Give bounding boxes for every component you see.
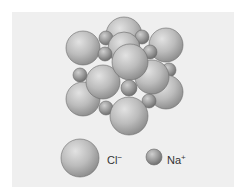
sodium-ion-sphere (73, 68, 87, 82)
chloride-ion-sphere (66, 31, 100, 65)
sodium-ion-sphere (121, 80, 137, 96)
legend-chloride-icon (61, 139, 99, 177)
legend-label-chloride: Cl− (107, 152, 122, 166)
nacl-lattice-diagram (0, 0, 248, 193)
legend-sodium-icon (146, 149, 162, 165)
sodium-ion-sphere (98, 47, 112, 61)
chloride-ion-sphere (110, 97, 148, 135)
ion-spheres (66, 17, 183, 135)
legend-label-sodium: Na+ (167, 152, 186, 166)
chloride-ion-sphere (112, 44, 148, 80)
